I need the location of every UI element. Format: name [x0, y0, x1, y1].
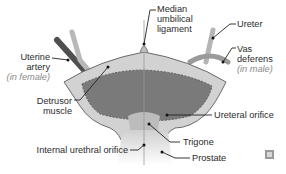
label-note: (in female)	[7, 72, 50, 82]
label-line: Detrusor	[37, 96, 72, 106]
label-internal-urethral-orifice: Internal urethral orifice	[37, 145, 128, 155]
label-trigone: Trigone	[183, 137, 214, 147]
label-line: artery	[7, 62, 50, 72]
label-uterine-artery: Uterine artery (in female)	[7, 52, 50, 82]
label-vas-deferens: Vas deferens (in male)	[237, 44, 273, 74]
label-detrusor-muscle: Detrusor muscle	[37, 96, 72, 116]
label-prostate: Prostate	[192, 153, 226, 163]
label-ureteral-orifice: Ureteral orifice	[214, 110, 274, 120]
label-line: Median	[157, 4, 193, 14]
label-line: ligament	[157, 24, 193, 34]
label-line: Uterine	[7, 52, 50, 62]
label-note: (in male)	[237, 64, 273, 74]
label-median-umbilical-ligament: Median umbilical ligament	[157, 4, 193, 34]
publisher-logo-icon	[265, 150, 274, 159]
bladder-diagram: Median umbilical ligament Ureter Vas def…	[0, 0, 286, 174]
label-line: umbilical	[157, 14, 193, 24]
label-line: deferens	[237, 54, 273, 64]
label-ureter: Ureter	[237, 19, 263, 29]
label-line: muscle	[37, 106, 72, 116]
label-line: Vas	[237, 44, 273, 54]
